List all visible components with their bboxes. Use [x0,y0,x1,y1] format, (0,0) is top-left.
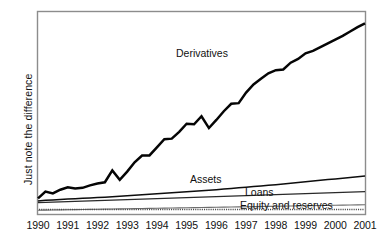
x-tick-label-2001: 2001 [354,219,377,231]
x-tick-label-2000: 2000 [324,219,347,231]
x-tick-label-1996: 1996 [205,219,228,231]
x-tick-label-1994: 1994 [145,219,168,231]
chart-canvas: Just note the difference Derivatives Ass… [0,0,384,242]
x-tick-label-1992: 1992 [86,219,109,231]
x-tick-label-1997: 1997 [235,219,258,231]
x-tick-label-1990: 1990 [27,219,50,231]
x-tick-label-1991: 1991 [56,219,79,231]
chart-figure: Just note the difference Derivatives Ass… [0,0,384,242]
x-tick-label-1995: 1995 [175,219,198,231]
annotation-equity-and-reserves: Equity and reserves [240,199,333,211]
x-tick-label-1999: 1999 [294,219,317,231]
x-tick-label-1998: 1998 [264,219,287,231]
annotation-assets: Assets [190,173,222,185]
y-axis-label: Just note the difference [22,74,34,185]
x-tick-label-1993: 1993 [116,219,139,231]
y-axis-label-text: Just note the difference [22,74,34,185]
annotation-derivatives: Derivatives [176,47,228,59]
annotation-loans: Loans [245,186,274,198]
